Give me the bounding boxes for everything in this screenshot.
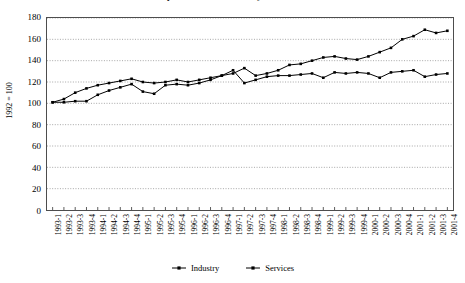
data-point-marker: [232, 69, 235, 72]
y-axis-tick-labels: 020406080100120140160180: [0, 0, 44, 283]
data-point-marker: [221, 74, 224, 77]
data-point-marker: [311, 72, 314, 75]
x-tick-label: 2000-4: [406, 214, 414, 235]
x-tick-label: 1998-3: [304, 214, 312, 235]
data-point-marker: [153, 92, 156, 95]
y-tick-label: 120: [28, 78, 42, 87]
x-tick-label: 2000-1: [372, 214, 380, 235]
y-tick-label: 140: [28, 56, 42, 65]
data-point-marker: [446, 72, 449, 75]
x-tick-label: 2001-1: [417, 214, 425, 235]
data-point-marker: [288, 64, 291, 67]
legend-item-services[interactable]: Services: [245, 263, 294, 273]
x-tick-label: 1996-2: [202, 214, 210, 235]
y-tick-label: 80: [32, 121, 41, 130]
y-tick-label: 0: [37, 207, 42, 216]
chart-legend: IndustryServices: [0, 263, 465, 273]
data-point-marker: [356, 71, 359, 74]
data-point-marker: [209, 76, 212, 79]
data-point-marker: [198, 82, 201, 85]
data-point-marker: [74, 91, 77, 94]
data-point-marker: [266, 75, 269, 78]
x-tick-label: 1996-3: [213, 214, 221, 235]
data-point-marker: [254, 79, 257, 82]
data-point-marker: [435, 32, 438, 35]
data-point-marker: [142, 90, 145, 93]
data-point-marker: [266, 72, 269, 75]
data-point-marker: [424, 28, 427, 31]
data-point-marker: [96, 84, 99, 87]
data-point-marker: [345, 72, 348, 75]
x-tick-label: 1995-2: [157, 214, 165, 235]
legend-marker-icon: [171, 264, 187, 272]
data-point-marker: [378, 76, 381, 79]
x-tick-label: 1999-3: [349, 214, 357, 235]
data-point-marker: [277, 69, 280, 72]
data-point-marker: [85, 100, 88, 103]
data-point-marker: [198, 79, 201, 82]
data-point-marker: [153, 82, 156, 85]
x-tick-label: 2000-3: [395, 214, 403, 235]
x-tick-label: 1994-4: [134, 214, 142, 235]
data-point-marker: [187, 81, 190, 84]
chart-title: Output indices for industry and services: [0, 0, 465, 2]
data-point-marker: [243, 67, 246, 70]
data-point-marker: [367, 72, 370, 75]
data-point-marker: [130, 83, 133, 86]
x-tick-label: 1993-4: [89, 214, 97, 235]
data-point-marker: [333, 55, 336, 58]
x-tick-label: 1997-3: [259, 214, 267, 235]
data-point-marker: [412, 69, 415, 72]
x-tick-label: 1999-1: [327, 214, 335, 235]
series-layer: [51, 28, 448, 103]
y-tick-label: 20: [32, 185, 41, 194]
y-tick-label: 180: [28, 13, 42, 22]
x-tick-label: 2000-2: [383, 214, 391, 235]
x-tick-label: 1994-1: [100, 214, 108, 235]
data-point-marker: [288, 74, 291, 77]
data-point-marker: [367, 55, 370, 58]
x-axis-tick-labels: 1993-11993-21993-31993-41994-11994-21994…: [46, 214, 454, 260]
x-tick-label: 2001-3: [440, 214, 448, 235]
x-tick-label: 1997-4: [270, 214, 278, 235]
x-tick-label: 1993-1: [55, 214, 63, 235]
data-point-marker: [51, 101, 54, 104]
data-point-marker: [187, 84, 190, 87]
data-point-marker: [277, 74, 280, 77]
data-point-marker: [435, 73, 438, 76]
data-point-marker: [333, 71, 336, 74]
x-tick-label: 1993-2: [66, 214, 74, 235]
data-point-marker: [311, 59, 314, 62]
x-tick-label: 1995-3: [168, 214, 176, 235]
data-point-marker: [96, 94, 99, 97]
data-point-marker: [63, 101, 66, 104]
data-point-marker: [119, 80, 122, 83]
data-point-marker: [299, 63, 302, 66]
plot-area: [46, 17, 454, 211]
data-point-marker: [390, 71, 393, 74]
data-point-marker: [164, 84, 167, 87]
data-point-marker: [446, 30, 449, 33]
x-tick-label: 1996-1: [191, 214, 199, 235]
data-point-marker: [119, 86, 122, 89]
data-point-marker: [401, 70, 404, 73]
y-tick-label: 100: [28, 99, 42, 108]
y-tick-label: 160: [28, 35, 42, 44]
data-point-marker: [243, 82, 246, 85]
x-tick-label: 1994-2: [111, 214, 119, 235]
data-point-marker: [424, 75, 427, 78]
data-point-marker: [378, 51, 381, 54]
data-point-marker: [108, 82, 111, 85]
data-point-marker: [299, 73, 302, 76]
x-tick-label: 1994-3: [123, 214, 131, 235]
series-services: [51, 28, 448, 103]
data-point-marker: [390, 47, 393, 50]
series-industry: [51, 69, 448, 104]
x-tick-label: 1998-1: [281, 214, 289, 235]
x-tick-label: 1998-4: [315, 214, 323, 235]
data-point-marker: [412, 35, 415, 38]
x-tick-label: 1997-1: [236, 214, 244, 235]
legend-item-industry[interactable]: Industry: [171, 263, 219, 273]
x-tick-label: 2001-4: [451, 214, 459, 235]
x-tick-label: 1997-2: [247, 214, 255, 235]
